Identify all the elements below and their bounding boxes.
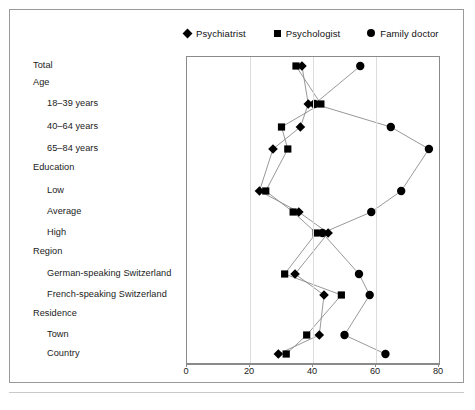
caption-divider — [9, 392, 464, 393]
square-marker-icon — [274, 30, 281, 37]
x-tick-label: 80 — [433, 366, 443, 376]
row-label: Average — [47, 206, 81, 216]
row-label: Low — [47, 185, 64, 195]
circle-marker-icon — [366, 291, 374, 299]
diamond-marker-icon — [290, 269, 300, 279]
x-tick-label: 40 — [307, 366, 317, 376]
gridline — [250, 57, 251, 364]
gridline — [313, 57, 314, 364]
square-marker-icon — [290, 208, 297, 215]
diamond-marker-icon — [268, 144, 278, 154]
row-label: 18–39 years — [47, 98, 98, 108]
circle-marker-icon — [355, 270, 363, 278]
diamond-marker-icon — [315, 330, 325, 340]
diamond-marker-icon — [319, 290, 329, 300]
circle-marker-icon — [387, 123, 395, 131]
chart-figure: Psychiatrist Psychologist Family doctor … — [0, 0, 475, 410]
row-label: Region — [33, 246, 62, 256]
square-marker-icon — [284, 145, 291, 152]
x-tick-label: 0 — [183, 366, 188, 376]
row-label: 65–84 years — [47, 143, 98, 153]
series-line-psychologist — [266, 66, 342, 354]
circle-marker-icon — [356, 62, 364, 70]
legend-label-family-doctor: Family doctor — [380, 28, 438, 39]
legend-item-psychologist[interactable]: Psychologist — [274, 28, 341, 39]
legend-label-psychologist: Psychologist — [286, 28, 341, 39]
circle-marker-icon — [381, 350, 389, 358]
plot-area — [186, 56, 440, 365]
legend-item-family-doctor[interactable]: Family doctor — [367, 28, 438, 39]
gridline — [376, 57, 377, 364]
square-marker-icon — [262, 187, 269, 194]
circle-marker-icon — [340, 331, 348, 339]
row-label: Education — [33, 162, 74, 172]
circle-marker-icon — [318, 229, 326, 237]
row-label: High — [47, 227, 66, 237]
square-marker-icon — [292, 62, 299, 69]
x-tick-label: 60 — [370, 366, 380, 376]
row-label: Country — [47, 348, 80, 358]
square-marker-icon — [278, 123, 285, 130]
x-tick-label: 20 — [244, 366, 254, 376]
row-label: Total — [33, 60, 53, 70]
row-label: Age — [33, 77, 50, 87]
square-marker-icon — [303, 331, 310, 338]
circle-marker-icon — [367, 208, 375, 216]
row-label: Town — [47, 329, 69, 339]
circle-marker-icon — [310, 100, 318, 108]
legend-item-psychiatrist[interactable]: Psychiatrist — [184, 28, 246, 39]
row-label: German-speaking Switzerland — [47, 268, 171, 278]
chart-legend: Psychiatrist Psychologist Family doctor — [180, 24, 455, 42]
square-marker-icon — [338, 291, 345, 298]
legend-label-psychiatrist: Psychiatrist — [196, 28, 246, 39]
row-label: 40–64 years — [47, 121, 98, 131]
square-marker-icon — [281, 270, 288, 277]
circle-marker-icon — [425, 145, 433, 153]
row-label: French-speaking Switzerland — [47, 289, 167, 299]
diamond-marker-icon — [274, 349, 284, 359]
row-label: Residence — [33, 308, 77, 318]
square-marker-icon — [283, 350, 290, 357]
circle-marker-icon — [367, 29, 375, 37]
diamond-marker-icon — [296, 122, 306, 132]
category-axis-labels: TotalAge18–39 years40–64 years65–84 year… — [0, 0, 186, 410]
circle-marker-icon — [397, 187, 405, 195]
x-axis-line — [186, 363, 439, 365]
